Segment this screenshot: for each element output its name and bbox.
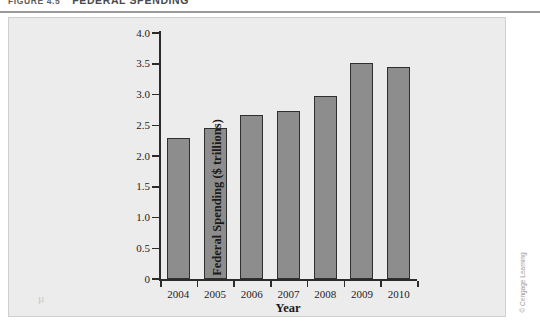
y-axis-tick	[152, 63, 159, 65]
bar	[314, 96, 337, 279]
x-axis-tick-label: 2007	[269, 288, 309, 300]
y-axis-tick	[152, 155, 159, 157]
x-axis-tick	[344, 281, 346, 287]
x-axis-tick	[307, 281, 309, 287]
bar	[240, 115, 263, 279]
x-axis-tick-label: 2010	[379, 288, 419, 300]
copyright-credit: © Cengage Learning	[519, 221, 526, 313]
x-axis-tick-label: 2008	[305, 288, 345, 300]
bar	[350, 63, 373, 279]
x-axis-tick	[270, 281, 272, 287]
bar	[277, 111, 300, 279]
y-axis-tick-label-text: 2.0	[124, 150, 150, 162]
figure-page: FIGURE 4.5FEDERAL SPENDING 00.51.01.52.0…	[0, 0, 540, 327]
x-axis-tick-label: 2006	[232, 288, 272, 300]
x-axis-tick	[417, 281, 419, 287]
y-axis-tick	[152, 32, 159, 34]
y-axis-tick-label-text: 3.5	[124, 57, 150, 69]
y-axis-tick-label: 2.5	[122, 119, 150, 131]
x-axis-tick-label: 2004	[158, 288, 198, 300]
y-axis-tick-label-text: 0.5	[124, 242, 150, 254]
y-axis-tick-label-text: 1.0	[124, 211, 150, 223]
y-axis-tick-label: 0	[122, 273, 150, 285]
bar	[167, 138, 190, 279]
y-axis-tick	[152, 186, 159, 188]
y-axis-tick-label: 3.5	[122, 57, 150, 69]
x-axis-tick	[160, 281, 162, 287]
y-axis-title-holder: Federal Spending ($ trillions)	[104, 40, 122, 270]
y-axis-title: Federal Spending ($ trillions)	[210, 83, 225, 313]
y-axis-tick-label: 3.0	[122, 88, 150, 100]
x-axis-tick-label: 2009	[342, 288, 382, 300]
y-axis-tick	[152, 217, 159, 219]
y-axis-line	[159, 31, 161, 281]
y-axis-tick-label-text: 0	[124, 273, 150, 285]
x-axis-tick	[197, 281, 199, 287]
y-axis-tick-label-text: 3.0	[124, 88, 150, 100]
y-axis-tick-label: 1.5	[122, 180, 150, 192]
bar	[387, 67, 410, 279]
y-axis-tick	[152, 248, 159, 250]
y-axis-tick	[152, 94, 159, 96]
x-axis-tick	[380, 281, 382, 287]
y-axis-tick-label-text: 2.5	[124, 119, 150, 131]
page-artifact: µ	[38, 292, 48, 306]
y-axis-tick-label: 0.5	[122, 242, 150, 254]
credit-holder: © Cengage Learning	[514, 225, 528, 315]
y-axis-tick-label-text: 4.0	[124, 27, 150, 39]
x-axis-tick	[233, 281, 235, 287]
y-axis-tick-label: 2.0	[122, 150, 150, 162]
y-axis-tick-label: 1.0	[122, 211, 150, 223]
y-axis-tick-label: 4.0	[122, 27, 150, 39]
bar-chart: 00.51.01.52.02.53.03.54.0 20042005200620…	[0, 0, 540, 327]
x-axis-title: Year	[159, 301, 417, 316]
y-axis-tick-label-text: 1.5	[124, 180, 150, 192]
y-axis-tick	[152, 125, 159, 127]
y-axis-tick	[152, 278, 159, 280]
